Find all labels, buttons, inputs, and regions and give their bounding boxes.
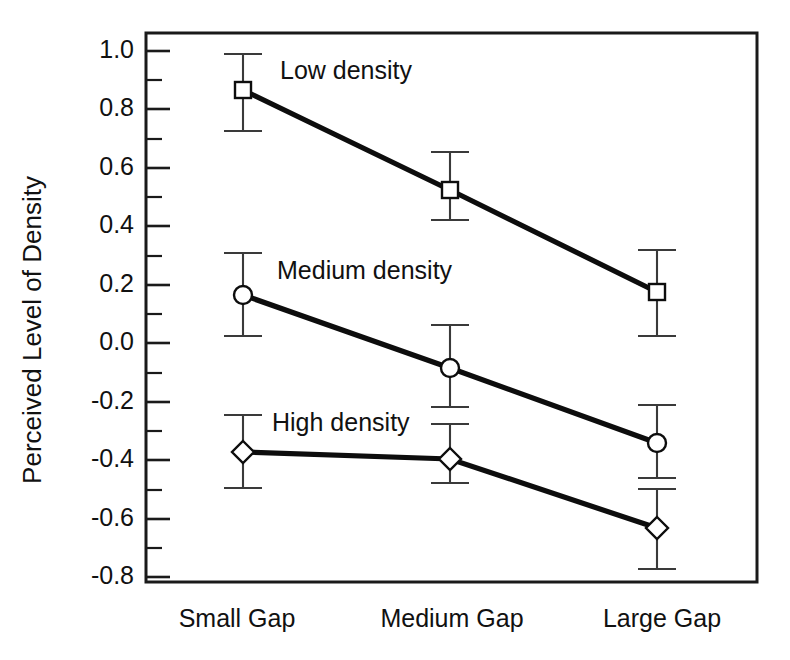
y-tick-label: 0.2 <box>99 269 134 297</box>
y-tick-label: 0.0 <box>99 327 134 355</box>
marker-diamond-medium-gap <box>439 448 461 470</box>
marker-circle-medium-gap <box>441 359 459 377</box>
y-tick-label: -0.4 <box>91 444 134 472</box>
y-tick-label: 0.8 <box>99 93 134 121</box>
y-tick-label: -0.8 <box>91 561 134 589</box>
plot-frame <box>146 33 757 582</box>
series-high-density <box>224 415 676 569</box>
series-low-density <box>224 54 676 336</box>
annotation-medium-density: Medium density <box>277 256 453 284</box>
y-tick-label: 1.0 <box>99 35 134 63</box>
marker-diamond-small-gap <box>232 441 254 463</box>
marker-circle-small-gap <box>234 286 252 304</box>
y-tick-label: -0.6 <box>91 503 134 531</box>
marker-diamond-large-gap <box>646 517 668 539</box>
errorbars-high-density <box>224 415 676 569</box>
x-category-label-large-gap: Large Gap <box>603 604 721 632</box>
marker-square-medium-gap <box>442 182 458 198</box>
x-category-label-medium-gap: Medium Gap <box>380 604 523 632</box>
annotation-low-density: Low density <box>280 56 413 84</box>
marker-square-small-gap <box>235 82 251 98</box>
y-axis-minor-ticks <box>146 80 162 548</box>
line-chart: 1.0 0.8 0.6 0.4 0.2 0.0 -0.2 -0.4 -0.6 -… <box>0 0 790 660</box>
marker-square-large-gap <box>649 284 665 300</box>
annotation-high-density: High density <box>272 408 410 436</box>
y-tick-label: 0.4 <box>99 210 134 238</box>
marker-circle-large-gap <box>648 434 666 452</box>
y-tick-label: 0.6 <box>99 152 134 180</box>
chart-figure: 1.0 0.8 0.6 0.4 0.2 0.0 -0.2 -0.4 -0.6 -… <box>0 0 790 660</box>
y-axis-title: Perceived Level of Density <box>17 176 47 484</box>
y-tick-label: -0.2 <box>91 386 134 414</box>
x-category-label-small-gap: Small Gap <box>179 604 296 632</box>
